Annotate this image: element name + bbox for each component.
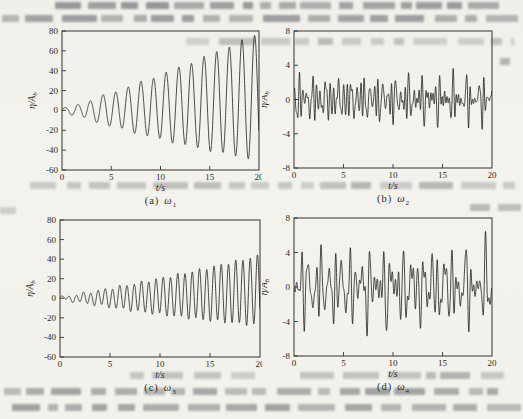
waveform-a — [62, 35, 259, 158]
svg-text:-60: -60 — [44, 352, 56, 362]
svg-text:80: 80 — [49, 26, 59, 36]
caption-d-subscript: 4 — [406, 387, 410, 395]
svg-text:15: 15 — [438, 358, 448, 368]
svg-text:0: 0 — [286, 282, 291, 292]
caption-d-index: (d) — [377, 381, 392, 392]
svg-text:-40: -40 — [44, 332, 56, 342]
svg-text:5: 5 — [341, 170, 346, 180]
svg-text:40: 40 — [47, 254, 57, 264]
svg-text:0: 0 — [292, 358, 297, 368]
svg-text:η/Ab: η/Ab — [25, 280, 37, 297]
svg-text:5: 5 — [341, 358, 346, 368]
waveform-b — [294, 68, 492, 129]
svg-text:10: 10 — [389, 170, 399, 180]
svg-text:10: 10 — [389, 358, 399, 368]
svg-text:-8: -8 — [283, 351, 291, 361]
svg-text:10: 10 — [156, 359, 166, 369]
svg-text:40: 40 — [49, 66, 59, 76]
svg-text:4: 4 — [286, 60, 291, 70]
waveform-d — [294, 231, 492, 336]
svg-text:8: 8 — [286, 213, 291, 223]
svg-text:0: 0 — [54, 105, 59, 115]
caption-a-subscript: 1 — [173, 201, 177, 209]
svg-text:0: 0 — [52, 293, 57, 303]
svg-text:η/Ab: η/Ab — [262, 91, 271, 108]
svg-text:-4: -4 — [283, 129, 291, 139]
svg-text:0: 0 — [58, 359, 63, 369]
svg-text:-60: -60 — [46, 165, 58, 175]
xaxis-label-a: t/s — [62, 182, 259, 194]
svg-text:20: 20 — [47, 274, 57, 284]
caption-b: (b)ω2 — [294, 193, 492, 209]
caption-a-index: (a) — [145, 195, 160, 206]
chart-panel-b: 840-4-805101520η/Ab — [262, 0, 523, 188]
svg-text:20: 20 — [488, 170, 498, 180]
svg-text:0: 0 — [286, 95, 291, 105]
svg-text:5: 5 — [108, 359, 113, 369]
svg-text:20: 20 — [49, 86, 59, 96]
svg-text:η/Ab: η/Ab — [262, 278, 271, 295]
xaxis-label-c: t/s — [60, 369, 260, 381]
svg-text:60: 60 — [47, 235, 57, 245]
svg-text:-40: -40 — [46, 145, 58, 155]
caption-d: (d)ω4 — [294, 381, 492, 397]
caption-c-index: (c) — [144, 382, 159, 393]
svg-text:0: 0 — [292, 170, 297, 180]
svg-text:-20: -20 — [46, 125, 58, 135]
caption-b-index: (b) — [377, 193, 392, 204]
svg-text:4: 4 — [286, 248, 291, 258]
svg-text:15: 15 — [206, 359, 216, 369]
caption-b-subscript: 2 — [406, 199, 410, 207]
chart-panel-a: 806040200-20-40-6005101520η/Ab — [0, 0, 262, 190]
svg-text:60: 60 — [49, 46, 59, 56]
caption-a: (a)ω1 — [62, 195, 259, 211]
caption-b-omega: ω — [397, 193, 405, 204]
chart-panel-c: 806040200-20-40-6005101520η/Ab — [0, 210, 262, 382]
svg-text:5: 5 — [109, 172, 114, 182]
svg-text:η/Ab: η/Ab — [27, 92, 39, 109]
svg-text:10: 10 — [156, 172, 166, 182]
caption-c: (c)ω3 — [60, 382, 260, 398]
svg-text:80: 80 — [47, 215, 57, 225]
caption-d-omega: ω — [397, 381, 405, 392]
blurred-text-line — [12, 403, 522, 413]
chart-panel-d: 840-4-805101520η/Ab — [262, 210, 523, 380]
svg-text:-4: -4 — [283, 317, 291, 327]
svg-text:0: 0 — [60, 172, 65, 182]
caption-c-subscript: 3 — [172, 388, 176, 396]
svg-text:-20: -20 — [44, 313, 56, 323]
svg-text:-8: -8 — [283, 163, 291, 173]
caption-a-omega: ω — [164, 195, 172, 206]
scanned-book-page: 806040200-20-40-6005101520η/Ab 840-4-805… — [0, 0, 523, 419]
svg-text:15: 15 — [205, 172, 215, 182]
xaxis-label-b: t/s — [294, 180, 492, 192]
waveform-c — [60, 255, 260, 326]
svg-text:15: 15 — [438, 170, 448, 180]
svg-text:20: 20 — [488, 358, 498, 368]
svg-text:20: 20 — [255, 172, 263, 182]
svg-text:8: 8 — [286, 26, 291, 36]
xaxis-label-d: t/s — [294, 368, 492, 380]
